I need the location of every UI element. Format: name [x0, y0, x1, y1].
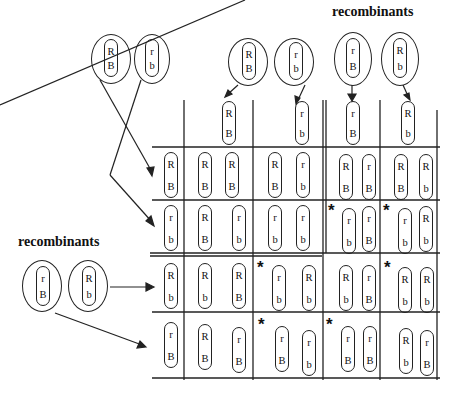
chromosome: RB: [242, 42, 256, 80]
chromosome: RB: [104, 39, 118, 77]
recombinant-star: *: [257, 259, 264, 276]
chromosome: rb: [398, 208, 412, 254]
chromosome: rB: [363, 326, 377, 372]
chromosome: RB: [198, 324, 212, 370]
chromosome: rb: [302, 330, 316, 376]
recombinant-star: *: [383, 202, 390, 219]
chromosome: rb: [268, 205, 282, 251]
chromosome: rb: [289, 42, 303, 80]
chromosome: RB: [339, 154, 353, 200]
chromosome: rB: [362, 265, 376, 311]
top-recombinants-label: recombinants: [332, 4, 413, 20]
chromosome: RB: [198, 152, 212, 198]
chromosome: rb: [145, 39, 159, 77]
chromosome: RB: [232, 263, 246, 309]
chromosome: Rb: [419, 206, 433, 252]
chromosome: RB: [394, 154, 408, 200]
chromosome: Rb: [82, 266, 96, 306]
chromosome: rb: [296, 152, 310, 198]
chromosome: rB: [275, 326, 289, 372]
recombinant-star: *: [384, 259, 391, 276]
recombinant-star: *: [328, 202, 335, 219]
chromosome: RB: [268, 152, 282, 198]
recombinant-star: *: [258, 316, 265, 333]
chromosome: rB: [346, 38, 360, 78]
chromosome: rB: [36, 266, 50, 306]
row-gamete-4: rB: [164, 322, 178, 368]
chromosome: Rb: [419, 154, 433, 200]
column-gamete-4: Rb: [401, 101, 415, 145]
column-gamete-3: rB: [346, 101, 360, 145]
row-gamete-1: RB: [164, 152, 178, 198]
row-gamete-2: rb: [164, 205, 178, 251]
chromosome: rB: [420, 330, 434, 376]
row-gamete-3: Rb: [164, 263, 178, 309]
chromosome: Rb: [393, 38, 407, 78]
chromosome: rb: [296, 205, 310, 251]
chromosome: Rb: [198, 263, 212, 309]
chromosome: rB: [232, 327, 246, 373]
chromosome: RB: [198, 205, 212, 251]
chromosome: RB: [225, 152, 239, 198]
chromosome: rb: [342, 208, 356, 254]
column-gamete-1: RB: [222, 101, 236, 145]
chromosome: Rb: [399, 328, 413, 374]
chromosome: Rb: [302, 265, 316, 311]
chromosome: Rb: [398, 267, 412, 313]
column-gamete-2: rb: [295, 101, 309, 145]
chromosome: rb: [272, 265, 286, 311]
recombinant-star: *: [326, 316, 333, 333]
chromosome: rB: [362, 154, 376, 200]
chromosome: rB: [362, 206, 376, 252]
chromosome: rb: [232, 205, 246, 251]
left-recombinants-label: recombinants: [18, 234, 99, 250]
chromosome: Rb: [339, 265, 353, 311]
chromosome: Rb: [420, 267, 434, 313]
chromosome: rB: [341, 326, 355, 372]
